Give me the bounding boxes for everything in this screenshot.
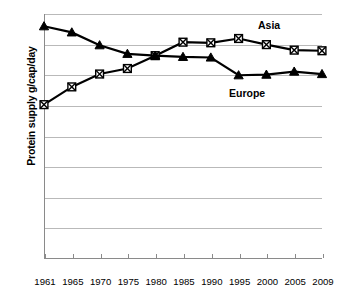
data-point-asia — [96, 70, 104, 78]
series-overlay — [44, 14, 322, 259]
series-line-europe — [44, 26, 322, 75]
data-point-asia — [235, 35, 243, 43]
data-point-asia — [207, 39, 215, 47]
y-axis-title: Protein supply g/cap/day — [25, 11, 37, 201]
series-label-asia: Asia — [258, 19, 280, 31]
data-point-europe — [39, 22, 48, 30]
data-point-asia — [290, 46, 298, 54]
data-point-asia — [263, 41, 271, 49]
data-point-asia — [68, 83, 76, 91]
data-point-asia — [318, 47, 326, 55]
series-label-europe: Europe — [229, 87, 265, 99]
data-point-asia — [40, 101, 48, 109]
x-tick — [323, 254, 324, 258]
x-tick-label: 2009 — [303, 276, 338, 287]
series-line-asia — [44, 39, 322, 105]
data-point-asia — [179, 38, 187, 46]
data-point-asia — [124, 65, 132, 73]
